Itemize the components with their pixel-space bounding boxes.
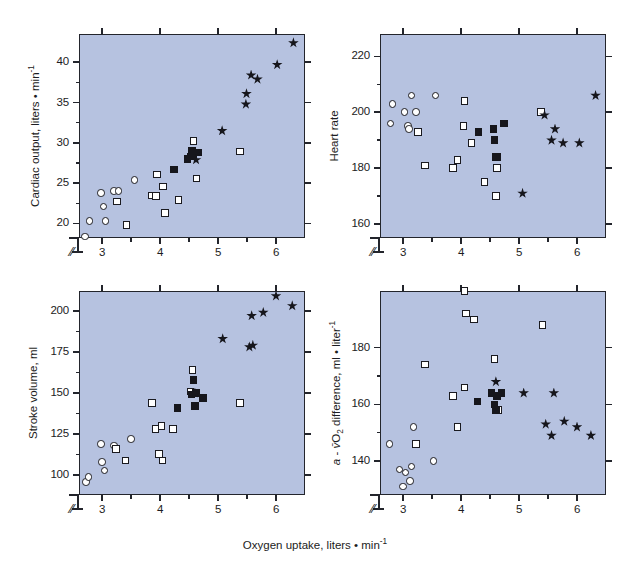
xtick-major <box>402 495 404 501</box>
data-point-open-square <box>461 287 469 295</box>
xtick-label: 3 <box>393 503 413 515</box>
ytick-major <box>374 460 380 462</box>
plot-panel-avo2-difference: 3456140160180∕∕a - v̄O2 difference, ml •… <box>0 0 622 576</box>
data-point-open-circle <box>430 457 438 465</box>
ylabel-avo2-difference: a - v̄O2 difference, ml • liter-1 <box>328 291 345 495</box>
data-point-filled-square <box>498 389 506 397</box>
data-point-open-circle <box>406 477 414 485</box>
data-point-open-square <box>421 361 429 369</box>
ytick-major-right <box>606 347 612 349</box>
data-point-open-square <box>539 321 547 329</box>
ytick-minor <box>377 375 381 377</box>
xtick-minor <box>547 495 549 499</box>
xtick-label: 4 <box>451 503 471 515</box>
yaxis-stub-cap <box>373 508 384 510</box>
data-point-filled-square <box>492 406 500 414</box>
data-point-open-square <box>412 440 420 448</box>
data-point-open-square <box>462 310 470 318</box>
ytick-major-right <box>606 404 612 406</box>
xtick-major <box>576 495 578 501</box>
xtick-major <box>518 495 520 501</box>
ytick-major <box>374 347 380 349</box>
ytick-major-right <box>606 460 612 462</box>
data-point-open-square <box>454 423 462 431</box>
data-point-open-square <box>449 392 457 400</box>
xtick-major <box>460 495 462 501</box>
data-point-open-square <box>470 316 478 324</box>
data-point-open-circle <box>399 483 407 491</box>
data-point-open-circle <box>410 423 418 431</box>
data-point-open-square <box>461 384 469 392</box>
data-point-open-circle <box>386 440 394 448</box>
yaxis-stub <box>378 495 380 509</box>
ytick-minor <box>377 432 381 434</box>
xtick-major-top <box>576 285 578 291</box>
xtick-major-top <box>402 285 404 291</box>
data-point-open-square <box>491 355 499 363</box>
xaxis-label: Oxygen uptake, liters • min-1 <box>150 537 480 551</box>
xtick-label: 6 <box>567 503 587 515</box>
data-point-filled-square <box>474 398 482 406</box>
xtick-minor <box>431 495 433 499</box>
xtick-minor <box>489 495 491 499</box>
xtick-major-top <box>518 285 520 291</box>
ytick-major <box>374 404 380 406</box>
xtick-label: 5 <box>509 503 529 515</box>
scatter-figure: 34562025303540∕∕Cardiac output, liters •… <box>0 0 622 576</box>
xaxis-left-stub <box>370 494 380 496</box>
